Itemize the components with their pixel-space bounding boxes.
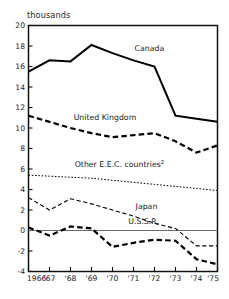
series-label-united-kingdom: United Kingdom <box>74 113 137 122</box>
series-line-u-s-s-r <box>29 226 218 264</box>
y-tick-label: 2 <box>20 206 25 215</box>
y-tick-label: 20 <box>15 21 25 30</box>
series-label-other-e-e-c-countries: Other E.E.C. countries2 <box>75 159 165 169</box>
x-tick-label: '68 <box>65 274 77 283</box>
series-annotations: CanadaUnited KingdomOther E.E.C. countri… <box>74 44 165 227</box>
x-tick-label: '70 <box>107 274 119 283</box>
x-tick-label: '67 <box>44 274 56 283</box>
x-tick-label: '74 <box>191 274 203 283</box>
chart-canvas: CanadaUnited KingdomOther E.E.C. countri… <box>0 0 229 299</box>
series-line-other-e-e-c-countries <box>29 175 218 190</box>
y-tick-label: 4 <box>20 185 25 194</box>
series-label-canada: Canada <box>135 44 165 53</box>
series-label-u-s-s-r: U.S.S.R. <box>128 217 159 226</box>
y-tick-label: 16 <box>15 62 25 71</box>
x-axis-tick-labels: 1966'67'68'69'70'71'72'73'74'75 <box>27 274 219 283</box>
series-line-japan <box>29 198 218 246</box>
y-tick-label: -2 <box>17 247 25 256</box>
y-tick-label: 14 <box>15 83 25 92</box>
series-lines <box>29 45 218 264</box>
y-tick-label: 6 <box>20 165 25 174</box>
y-tick-label: 18 <box>15 42 25 51</box>
y-tick-label: 0 <box>20 226 25 235</box>
y-tick-label: -4 <box>17 267 25 276</box>
series-line-canada <box>29 45 218 122</box>
series-label-japan: Japan <box>135 202 158 211</box>
x-tick-label: '69 <box>86 274 98 283</box>
x-tick-label: '75 <box>207 274 219 283</box>
y-axis-tick-labels: 20181614121086420-2-4 <box>15 21 25 276</box>
x-tick-label: '73 <box>170 274 182 283</box>
y-tick-label: 12 <box>15 103 25 112</box>
y-tick-label: 10 <box>15 124 25 133</box>
x-tick-label: '72 <box>149 274 161 283</box>
line-chart: thousands CanadaUnited KingdomOther E.E.… <box>0 0 229 299</box>
x-tick-label: '71 <box>128 274 140 283</box>
y-tick-label: 8 <box>20 144 25 153</box>
